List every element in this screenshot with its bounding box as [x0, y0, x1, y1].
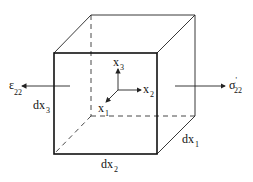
axis-x2-label: x2	[143, 82, 154, 99]
axis-x3-label: x3	[113, 55, 124, 72]
strain-label: ε22	[9, 78, 22, 97]
coordinate-axes	[106, 69, 141, 102]
cube-diagram: ε22 σ'22 dx3 dx2 dx1 x3 x2 x1	[0, 0, 253, 182]
axis-x1-label: x1	[98, 101, 109, 118]
stress-label: σ'22	[229, 76, 242, 95]
visible-edges	[54, 15, 195, 154]
dx1-label: dx1	[182, 132, 199, 149]
dx2-label: dx2	[101, 157, 118, 174]
front-face	[54, 53, 157, 154]
dx3-label: dx3	[33, 98, 50, 115]
